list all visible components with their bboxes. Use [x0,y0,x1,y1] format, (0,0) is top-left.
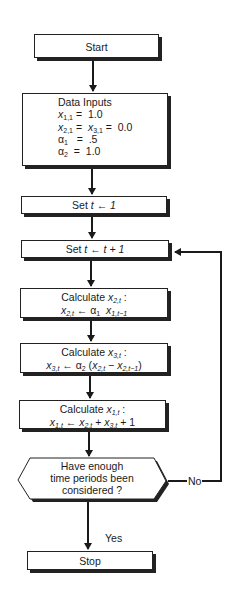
calculate-x1-formula: x1,t ← x2,t + x3,t + 1 [20,416,165,428]
set-t-increment-node: Set t ← t + 1 [21,240,169,258]
calculate-x1-node: Calculate x1,t : x1,t ← x2,t + x3,t + 1 [19,400,166,429]
data-inputs-node: Data Inputs x1,1 = 1.0 x2,1 = x3,1 = 0.0… [22,93,168,166]
set-t-initial-node: Set t ← 1 [21,196,167,214]
input-alpha1: α1 = .5 [58,133,97,145]
input-x21-x31: x2,1 = x3,1 = 0.0 [58,121,132,133]
decision-line-1: Have enough [30,460,154,472]
stop-label: Stop [28,555,152,567]
set-t-initial-label: Set t ← 1 [22,199,166,211]
calculate-x2-node: Calculate x2,t : x2,t ← α1 x1,t−1 [20,288,168,318]
no-label: No [187,475,202,487]
data-inputs-title: Data Inputs [58,96,112,108]
input-alpha2: α2 = 1.0 [58,145,100,157]
calculate-x1-title: Calculate x1,t : [20,403,165,415]
set-t-increment-label: Set t ← t + 1 [22,243,168,255]
calculate-x2-formula: x2,t ← α1 x1,t−1 [21,304,167,316]
decision-node: Have enough time periods been considered… [30,459,154,499]
start-label: Start [35,41,158,53]
decision-line-3: considered ? [30,484,154,496]
calculate-x3-formula: x3,t ← α2 (x2,t − x2,t−1) [21,359,167,371]
yes-label: Yes [104,532,123,544]
decision-line-2: time periods been [30,472,154,484]
calculate-x3-node: Calculate x3,t : x3,t ← α2 (x2,t − x2,t−… [20,343,168,373]
edge-decision-no-loop [168,252,221,481]
start-node: Start [34,34,159,58]
stop-node: Stop [27,551,153,570]
calculate-x3-title: Calculate x3,t : [21,346,167,358]
calculate-x2-title: Calculate x2,t : [21,291,167,303]
input-x11: x1,1 = 1.0 [58,108,102,120]
